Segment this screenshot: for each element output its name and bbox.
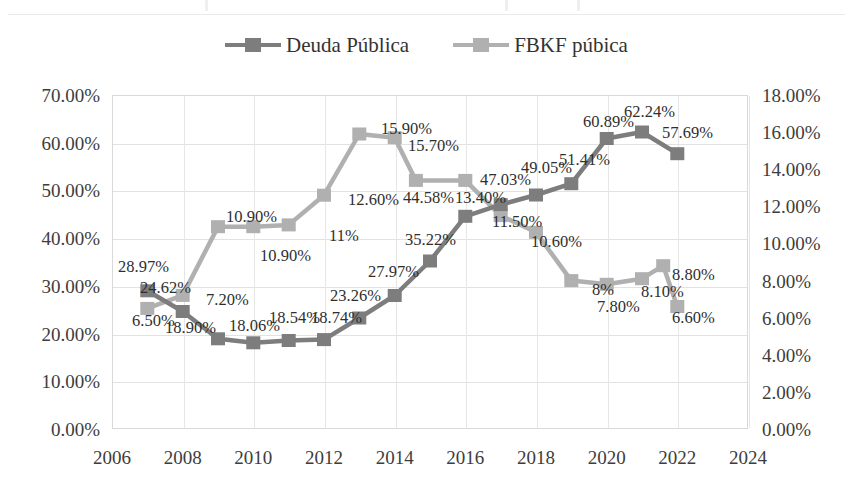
y-axis-right-tick: 14.00% — [762, 160, 853, 179]
y-axis-right-tick: 18.00% — [762, 86, 853, 105]
data-label-fbkf-publica: 8.80% — [672, 267, 715, 284]
y-axis-left-tick: 0.00% — [4, 420, 100, 439]
y-axis-right-tick: 2.00% — [762, 383, 853, 402]
y-axis-right-tick: 16.00% — [762, 123, 853, 142]
y-axis-left-tick: 60.00% — [4, 134, 100, 153]
x-axis-tick: 2006 — [77, 448, 147, 467]
data-label-fbkf-publica: 8.10% — [641, 284, 684, 301]
chart-legend: Deuda Pública FBKF púbica — [0, 30, 853, 60]
data-label-fbkf-publica: 15.70% — [408, 138, 459, 155]
x-axis-tick: 2010 — [218, 448, 288, 467]
legend-marker-swatch — [245, 38, 261, 52]
data-label-deuda-publica: 18.74% — [311, 310, 362, 327]
page-scan-artifact-glyph — [577, 0, 580, 11]
y-axis-right-tick: 4.00% — [762, 346, 853, 365]
page-scan-artifact-line — [8, 14, 845, 15]
x-axis-tick: 2024 — [713, 448, 783, 467]
data-label-deuda-publica: 51.41% — [559, 152, 610, 169]
data-label-fbkf-publica: 11.50% — [492, 214, 542, 231]
y-axis-right-tick: 8.00% — [762, 272, 853, 291]
legend-marker-swatch — [473, 38, 489, 52]
x-axis-tick: 2014 — [360, 448, 430, 467]
data-label-deuda-publica: 35.22% — [405, 232, 456, 249]
y-axis-right-tick: 10.00% — [762, 234, 853, 253]
x-axis-tick: 2018 — [501, 448, 571, 467]
y-axis-right-tick: 12.00% — [762, 197, 853, 216]
gridline-vertical — [184, 96, 185, 428]
legend-item-fbkf-publica[interactable]: FBKF púbica — [453, 35, 628, 56]
data-label-fbkf-publica: 6.50% — [132, 313, 175, 330]
data-label-fbkf-publica: 12.60% — [348, 192, 399, 209]
legend-item-deuda-publica[interactable]: Deuda Pública — [225, 35, 409, 56]
data-label-deuda-publica: 57.69% — [662, 125, 713, 142]
y-axis-right-tick: 6.00% — [762, 309, 853, 328]
page-scan-artifact-glyph — [205, 0, 208, 11]
y-axis-left-tick: 30.00% — [4, 277, 100, 296]
legend-label-deuda-publica: Deuda Pública — [286, 35, 409, 56]
data-label-fbkf-publica: 7.20% — [206, 292, 249, 309]
x-axis-tick: 2022 — [642, 448, 712, 467]
data-label-deuda-publica: 28.97% — [118, 259, 169, 276]
data-label-deuda-publica: 23.26% — [330, 288, 381, 305]
data-label-deuda-publica: 27.97% — [368, 264, 419, 281]
y-axis-left-tick: 20.00% — [4, 325, 100, 344]
gridline-vertical — [254, 96, 255, 428]
y-axis-left-tick: 10.00% — [4, 372, 100, 391]
data-label-fbkf-publica: 11% — [329, 228, 359, 245]
gridline-vertical — [466, 96, 467, 428]
data-label-fbkf-publica: 10.90% — [260, 248, 311, 265]
x-axis-tick: 2008 — [148, 448, 218, 467]
legend-label-fbkf-publica: FBKF púbica — [514, 35, 628, 56]
chart-container: Deuda Pública FBKF púbica — [0, 0, 853, 483]
x-axis-tick: 2016 — [430, 448, 500, 467]
gridline-vertical — [678, 96, 679, 428]
y-axis-left-tick: 70.00% — [4, 86, 100, 105]
y-axis-right-tick: 0.00% — [762, 420, 853, 439]
data-label-deuda-publica: 44.58% — [403, 190, 454, 207]
data-label-fbkf-publica: 13.40% — [455, 190, 506, 207]
gridline-vertical — [608, 96, 609, 428]
data-label-deuda-publica: 62.24% — [624, 104, 675, 121]
y-axis-left-tick: 40.00% — [4, 229, 100, 248]
legend-key-fbkf-publica — [453, 36, 509, 54]
gridline-vertical — [749, 96, 750, 428]
data-label-fbkf-publica: 10.90% — [226, 209, 277, 226]
page-scan-artifact-glyph — [505, 0, 508, 11]
gridline-vertical — [537, 96, 538, 428]
data-label-fbkf-publica: 7.80% — [597, 299, 640, 316]
data-label-deuda-publica: 24.62% — [140, 280, 191, 297]
gridline-horizontal — [113, 382, 747, 383]
gridline-vertical — [325, 96, 326, 428]
data-label-fbkf-publica: 6.60% — [672, 310, 715, 327]
legend-key-deuda-publica — [225, 36, 281, 54]
data-label-fbkf-publica: 10.60% — [531, 234, 582, 251]
x-axis-tick: 2012 — [289, 448, 359, 467]
y-axis-left-tick: 50.00% — [4, 181, 100, 200]
x-axis-tick: 2020 — [572, 448, 642, 467]
